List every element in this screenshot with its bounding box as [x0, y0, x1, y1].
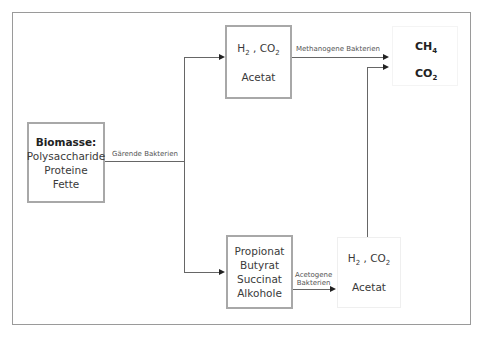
connector-biomass-out: [105, 161, 185, 162]
product-ch4: CH4: [415, 40, 437, 55]
acids-box: Propionat Butyrat Succinat Alkohole: [226, 235, 293, 309]
h2-co2-label: H2 , CO2: [348, 251, 390, 270]
acid-line: Butyrat: [240, 258, 279, 272]
acid-line: Succinat: [237, 272, 282, 286]
connector-to-bottom: [184, 272, 220, 273]
connector-to-products: [367, 67, 368, 237]
edge-label-acetogenic: AcetogeneBakterien: [295, 271, 332, 287]
arrow-head-icon: [383, 64, 389, 70]
connector-vertical-split: [184, 113, 185, 273]
top-intermediate-box: H2 , CO2 Acetat: [225, 25, 292, 99]
biomass-title: Biomasse:: [36, 135, 97, 149]
arrow-head-icon: [383, 54, 389, 60]
connector-to-top: [184, 57, 220, 58]
acetate-label: Acetat: [352, 280, 386, 294]
arrow-head-icon: [219, 269, 225, 275]
connector-acetogenic: [293, 289, 330, 290]
edge-label-fermenting: Gärende Bakterien: [112, 150, 178, 158]
edge-label-methanogenic: Methanogene Bakterien: [296, 45, 380, 53]
acid-line: Alkohole: [237, 286, 282, 300]
biomass-line: Proteine: [44, 163, 87, 177]
biomass-line: Polysaccharide: [27, 149, 105, 163]
biomass-line: Fette: [53, 177, 80, 191]
connector-vertical-split: [184, 57, 185, 113]
biomass-box: Biomasse: Polysaccharide Proteine Fette: [27, 122, 105, 203]
acetate-label: Acetat: [242, 70, 276, 84]
product-co2: CO2: [415, 67, 437, 82]
connector-to-products: [367, 67, 383, 68]
bottom-intermediate-box: H2 , CO2 Acetat: [337, 237, 401, 308]
h2-co2-label: H2 , CO2: [237, 41, 279, 60]
connector-methanogenic: [292, 57, 383, 58]
acid-line: Propionat: [235, 244, 285, 258]
